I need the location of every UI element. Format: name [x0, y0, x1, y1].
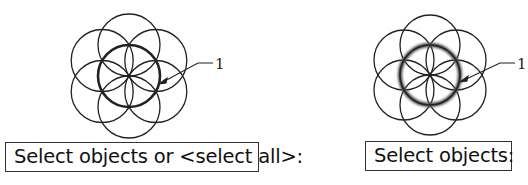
callout-number-left: 1	[215, 55, 225, 73]
flower-of-life-right	[374, 15, 486, 135]
command-prompt-select-all: Select objects or <select all>:	[5, 142, 259, 172]
leader-line	[161, 63, 213, 83]
command-prompt-select-objects: Select objects:	[365, 141, 512, 171]
leader-line	[462, 63, 515, 81]
callout-number-right: 1	[517, 55, 527, 73]
callout-right	[460, 63, 515, 82]
flower-of-life-left	[71, 14, 187, 138]
